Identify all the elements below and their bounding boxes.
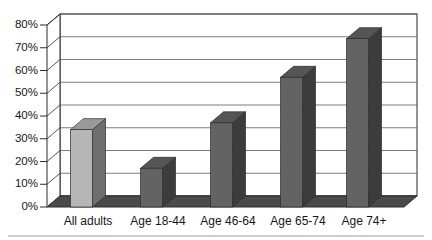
ytick-label: 0% — [21, 200, 38, 212]
bar-front-face — [347, 39, 369, 207]
ytick-label: 30% — [15, 132, 38, 144]
ytick-label: 10% — [15, 177, 38, 189]
bar-1 — [71, 119, 106, 207]
bar-4 — [281, 66, 316, 207]
ytick-label: 80% — [15, 18, 38, 30]
ytick-label: 50% — [15, 86, 38, 98]
bar-chart: 80% 70% 60% 50% 40% 30% 20% 10% 0% All a… — [0, 0, 432, 240]
xtick-label: All adults — [64, 214, 113, 228]
ytick-label: 40% — [15, 109, 38, 121]
bar-5 — [347, 28, 382, 207]
ytick-label: 20% — [15, 155, 38, 167]
bar-front-face — [71, 130, 93, 207]
xtick-label: Age 46-64 — [200, 214, 256, 228]
bar-3 — [211, 112, 246, 207]
bar-side-face — [303, 66, 316, 207]
bar-front-face — [281, 77, 303, 207]
xtick-label: Age 74+ — [341, 214, 386, 228]
y-axis-labels: 80% 70% 60% 50% 40% 30% 20% 10% 0% — [15, 18, 38, 212]
ytick-label: 70% — [15, 41, 38, 53]
bar-front-face — [211, 123, 233, 207]
xtick-label: Age 65-74 — [270, 214, 326, 228]
bar-front-face — [141, 168, 163, 207]
bar-2 — [141, 157, 176, 207]
ytick-label: 60% — [15, 64, 38, 76]
bar-side-face — [369, 28, 382, 207]
xtick-label: Age 18-44 — [130, 214, 186, 228]
bar-side-face — [93, 119, 106, 207]
bar-side-face — [233, 112, 246, 207]
chart-canvas: 80% 70% 60% 50% 40% 30% 20% 10% 0% All a… — [0, 0, 432, 240]
